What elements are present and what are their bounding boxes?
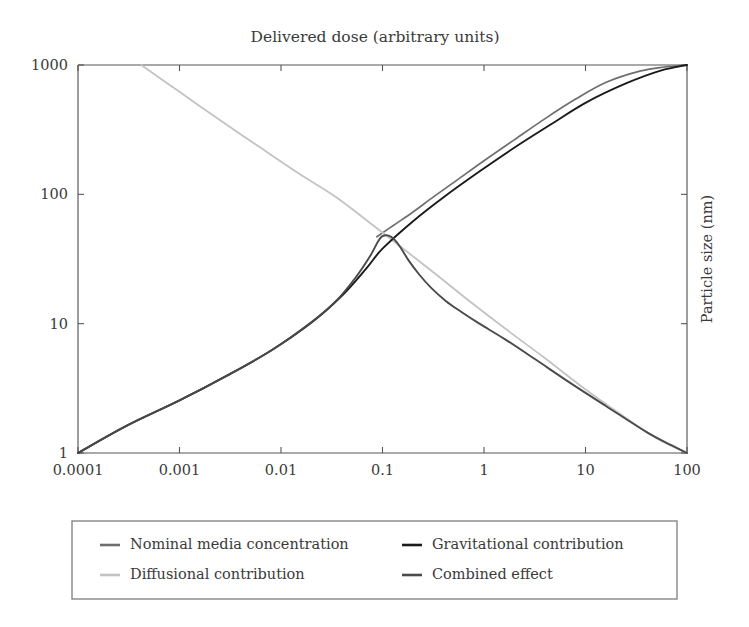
y-tick-label: 100 bbox=[40, 186, 68, 202]
y-axis-tick-labels: 1101001000 bbox=[31, 57, 68, 461]
legend-label: Gravitational contribution bbox=[432, 536, 624, 552]
y-axis-title: Particle size (nm) bbox=[699, 195, 715, 323]
series-line-gravitational-contribution bbox=[78, 65, 687, 453]
legend-item[interactable]: Combined effect bbox=[402, 566, 553, 582]
axis-ticks bbox=[78, 65, 687, 453]
legend-box bbox=[72, 521, 677, 599]
x-tick-label: 0.1 bbox=[371, 462, 394, 478]
chart-title: Delivered dose (arbitrary units) bbox=[251, 28, 500, 46]
x-tick-label: 0.001 bbox=[159, 462, 201, 478]
legend-item[interactable]: Nominal media concentration bbox=[100, 536, 349, 552]
data-series-group bbox=[78, 65, 687, 453]
x-tick-label: 1 bbox=[479, 462, 488, 478]
legend-item[interactable]: Diffusional contribution bbox=[100, 566, 305, 582]
x-tick-label: 10 bbox=[576, 462, 594, 478]
delivered-dose-chart: Delivered dose (arbitrary units) 0.00010… bbox=[0, 0, 749, 627]
series-line-combined-effect bbox=[78, 235, 687, 453]
y-tick-label: 10 bbox=[50, 316, 68, 332]
x-tick-label: 100 bbox=[673, 462, 701, 478]
x-tick-label: 0.0001 bbox=[53, 462, 104, 478]
chart-legend: Nominal media concentrationGravitational… bbox=[72, 521, 677, 599]
x-axis-tick-labels: 0.00010.0010.010.1110100 bbox=[53, 462, 701, 478]
legend-label: Nominal media concentration bbox=[130, 536, 349, 552]
legend-item[interactable]: Gravitational contribution bbox=[402, 536, 624, 552]
series-line-diffusional-contribution bbox=[141, 65, 687, 453]
x-tick-label: 0.01 bbox=[265, 462, 297, 478]
y-tick-label: 1 bbox=[59, 445, 68, 461]
chart-axes bbox=[78, 65, 687, 453]
y-tick-label: 1000 bbox=[31, 57, 68, 73]
series-line-nominal-media-concentration bbox=[377, 65, 687, 237]
legend-label: Diffusional contribution bbox=[130, 566, 305, 582]
legend-label: Combined effect bbox=[432, 566, 553, 582]
